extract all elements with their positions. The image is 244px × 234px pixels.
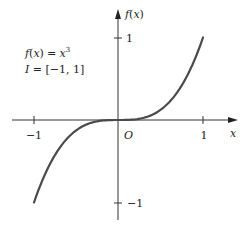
y-axis-label-close: ) <box>140 8 144 21</box>
y-tick-label-pos1: 1 <box>126 32 133 45</box>
x-axis-arrow-icon <box>228 117 238 123</box>
fn-close: ) <box>40 47 44 60</box>
y-tick-label-neg1: −1 <box>127 197 143 210</box>
function-annotation: f(x)= x3 <box>24 46 70 60</box>
y-axis-label: f(x) <box>124 8 144 21</box>
x-axis-label: x <box>230 127 237 140</box>
interval-rest: = [−1, 1] <box>29 63 84 76</box>
y-axis-arrow-icon <box>115 9 121 19</box>
interval-annotation: I = [−1, 1] <box>24 63 84 76</box>
fn-cube-exp: 3 <box>66 46 70 54</box>
x-tick-label-neg1: −1 <box>26 129 42 142</box>
fn-eq: = <box>47 47 60 60</box>
origin-label: O <box>124 129 133 142</box>
cubic-function-plot: −1 1 1 −1 O x f(x) f(x)= x3 I = [−1, 1] <box>0 0 244 234</box>
x-tick-label-pos1: 1 <box>201 129 208 142</box>
